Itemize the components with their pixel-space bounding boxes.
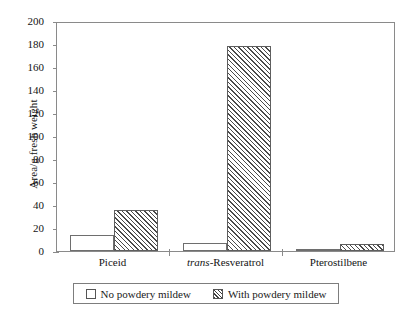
bar-chart-figure: Area/g fresh weight 02040608010012014016… xyxy=(0,0,413,319)
y-tick-label: 100 xyxy=(0,131,44,142)
y-tick-label: 200 xyxy=(0,16,44,27)
y-tick-label: 120 xyxy=(0,108,44,119)
y-tick-label: 0 xyxy=(0,246,44,257)
legend-label-no-powdery-mildew: No powdery mildew xyxy=(101,288,191,300)
bar-open-piceid xyxy=(70,235,114,251)
chart-legend: No powdery mildew With powdery mildew xyxy=(73,283,339,304)
x-tick-label-pterostilbene: Pterostilbene xyxy=(310,256,367,269)
bar-open-pterostilbene xyxy=(296,249,340,251)
legend-swatch-hatched-icon xyxy=(213,289,223,299)
y-tick-label: 40 xyxy=(0,200,44,211)
legend-label-with-powdery-mildew: With powdery mildew xyxy=(228,288,327,300)
x-tick-mark xyxy=(169,249,170,256)
legend-item-with-powdery-mildew: With powdery mildew xyxy=(213,288,327,300)
x-tick-mark xyxy=(282,249,283,256)
y-tick-label: 20 xyxy=(0,223,44,234)
y-tick-label: 80 xyxy=(0,154,44,165)
plot-area xyxy=(56,22,395,252)
bar-hatched-trans-resveratrol xyxy=(227,46,271,251)
y-tick-label: 160 xyxy=(0,62,44,73)
bar-hatched-pterostilbene xyxy=(340,244,384,251)
x-tick-label-trans-resveratrol: trans-Resveratrol xyxy=(187,256,264,269)
y-tick-label: 180 xyxy=(0,39,44,50)
y-tick-label: 60 xyxy=(0,177,44,188)
bar-hatched-piceid xyxy=(114,210,158,251)
legend-swatch-open-icon xyxy=(86,289,96,299)
y-tick-label: 140 xyxy=(0,85,44,96)
y-tick-mark xyxy=(53,252,59,253)
legend-item-no-powdery-mildew: No powdery mildew xyxy=(86,288,191,300)
x-tick-label-piceid: Piceid xyxy=(99,256,127,269)
bar-open-trans-resveratrol xyxy=(183,243,227,251)
